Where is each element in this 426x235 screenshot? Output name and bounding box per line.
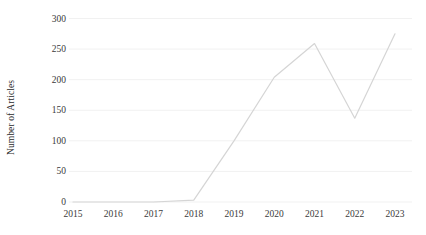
plot-area <box>0 0 426 235</box>
chart-figure: Number of Articles 050100150200250300 20… <box>0 0 426 235</box>
data-line <box>73 34 395 202</box>
gridlines <box>69 19 412 203</box>
data-series-group <box>73 34 395 202</box>
